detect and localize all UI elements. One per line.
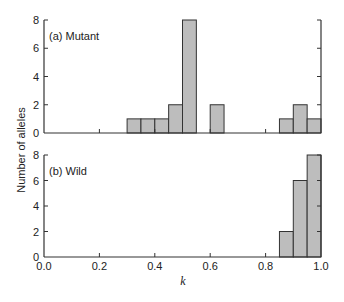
histogram-bar bbox=[155, 119, 169, 133]
y-tick-label: 8 bbox=[33, 14, 39, 26]
histogram-bar bbox=[307, 119, 321, 133]
panel-mutant: 02468(a) Mutant bbox=[33, 14, 321, 139]
x-tick-label: 0.2 bbox=[92, 260, 107, 272]
x-tick-label: 0.8 bbox=[258, 260, 273, 272]
panel-label-wild: (b) Wild bbox=[49, 165, 87, 177]
histogram-bar bbox=[183, 20, 197, 133]
x-tick-label: 1.0 bbox=[313, 260, 328, 272]
x-tick-label: 0.6 bbox=[203, 260, 218, 272]
y-tick-label: 4 bbox=[33, 200, 39, 212]
histogram-bar bbox=[141, 119, 155, 133]
y-tick-label: 6 bbox=[33, 42, 39, 54]
y-tick-label: 2 bbox=[33, 226, 39, 238]
y-tick-label: 2 bbox=[33, 99, 39, 111]
histogram-bar bbox=[169, 105, 183, 133]
x-tick-label: 0.0 bbox=[36, 260, 51, 272]
histogram-bar bbox=[293, 105, 307, 133]
histogram-bar bbox=[293, 181, 307, 258]
y-axis-title: Number of alleles bbox=[15, 107, 27, 193]
y-tick-label: 6 bbox=[33, 175, 39, 187]
histogram-bar bbox=[279, 119, 293, 133]
panel-label-mutant: (a) Mutant bbox=[49, 30, 99, 42]
y-tick-label: 4 bbox=[33, 71, 39, 83]
histogram-bar bbox=[210, 105, 224, 133]
histogram-figure: 02468(a) Mutant 024680.00.20.40.60.81.0(… bbox=[0, 0, 344, 302]
panel-wild: 024680.00.20.40.60.81.0(b) Wild bbox=[33, 149, 329, 272]
histogram-bar bbox=[127, 119, 141, 133]
y-tick-label: 0 bbox=[33, 127, 39, 139]
x-axis-title: k bbox=[180, 274, 186, 288]
x-tick-label: 0.4 bbox=[147, 260, 162, 272]
histogram-bar bbox=[279, 232, 293, 258]
y-tick-label: 8 bbox=[33, 149, 39, 161]
